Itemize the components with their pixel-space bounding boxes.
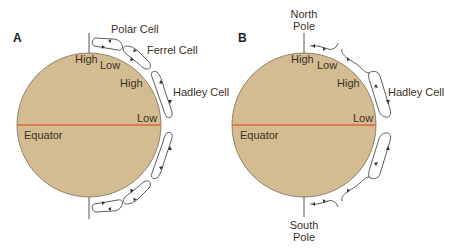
arrow-icon [312, 202, 315, 206]
polar-cell-north-loop [92, 38, 122, 50]
north-pole-label-line1: North [291, 8, 318, 20]
south-pole-label-line2: Pole [293, 231, 315, 243]
polar-wave-tick [336, 43, 338, 47]
arrow-icon [102, 45, 105, 49]
arrow-icon [347, 57, 350, 61]
arrow-icon [386, 146, 390, 150]
pressure-high-label: High [337, 77, 360, 89]
pressure-low-label: Low [137, 112, 157, 124]
pressure-low-label: Low [317, 59, 337, 71]
hadley-cell-label: Hadley Cell [173, 86, 229, 98]
pressure-low-label: Low [353, 112, 373, 124]
equator-label: Equator [24, 129, 63, 141]
panel-a-label: A [13, 31, 22, 45]
arrow-icon [108, 207, 111, 211]
polar-wave-tick [336, 203, 338, 207]
atmospheric-circulation-diagram: A Polar Cell [0, 0, 464, 251]
hadley-cell-label: Hadley Cell [388, 86, 444, 98]
arrow-icon [102, 201, 105, 205]
panel-a: A Polar Cell [13, 23, 229, 219]
south-pole-label-line1: South [290, 219, 319, 231]
arrow-icon [108, 39, 111, 43]
pressure-high-label: High [120, 77, 143, 89]
arrow-icon [312, 44, 315, 48]
arrow-icon [374, 84, 378, 88]
north-pole-label-line2: Pole [293, 20, 315, 32]
panel-b: B North Pole South Pole [232, 8, 444, 243]
arrow-icon [374, 162, 378, 166]
panel-b-label: B [238, 31, 247, 45]
polar-cell-south-loop [92, 200, 122, 212]
arrow-icon [347, 189, 350, 193]
pressure-low-label: Low [100, 59, 120, 71]
arrow-icon [386, 100, 390, 104]
pressure-high-label: High [291, 53, 314, 65]
polar-cell-label: Polar Cell [111, 23, 159, 35]
ferrel-cell-label: Ferrel Cell [147, 44, 198, 56]
equator-label: Equator [240, 129, 279, 141]
pressure-high-label: High [75, 53, 98, 65]
